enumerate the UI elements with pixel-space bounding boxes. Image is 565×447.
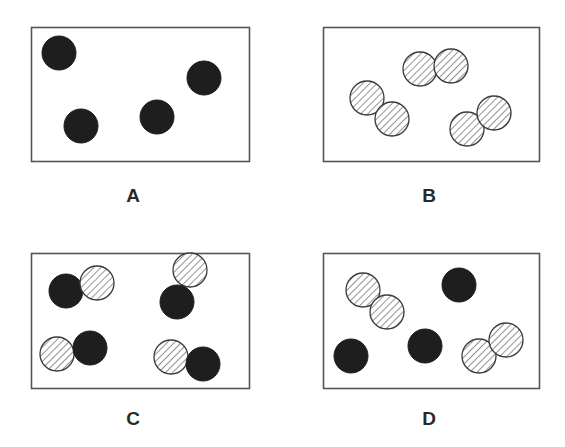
hatched-atom [370, 295, 404, 329]
filled-atom [64, 109, 98, 143]
diagram-canvas [0, 0, 565, 447]
panel-label-c: C [113, 408, 153, 430]
hatched-atom [403, 52, 437, 86]
filled-atom [408, 329, 442, 363]
panel-c [32, 253, 250, 389]
hatched-atom [173, 253, 207, 287]
hatched-atom [375, 102, 409, 136]
filled-atom [334, 339, 368, 373]
filled-atom [160, 285, 194, 319]
panel-d [324, 254, 540, 389]
hatched-atom [477, 96, 511, 130]
filled-atom [42, 36, 76, 70]
panel-label-b: B [409, 185, 449, 207]
panel-label-d: D [409, 408, 449, 430]
panel-b [324, 28, 540, 162]
hatched-atom [489, 323, 523, 357]
filled-atom [49, 274, 83, 308]
hatched-atom [80, 266, 114, 300]
filled-atom [73, 331, 107, 365]
hatched-atom [154, 340, 188, 374]
panel-a [32, 28, 250, 162]
filled-atom [187, 61, 221, 95]
filled-atom [140, 100, 174, 134]
filled-atom [186, 347, 220, 381]
hatched-atom [434, 49, 468, 83]
filled-atom [442, 268, 476, 302]
panel-label-a: A [113, 185, 153, 207]
hatched-atom [40, 337, 74, 371]
